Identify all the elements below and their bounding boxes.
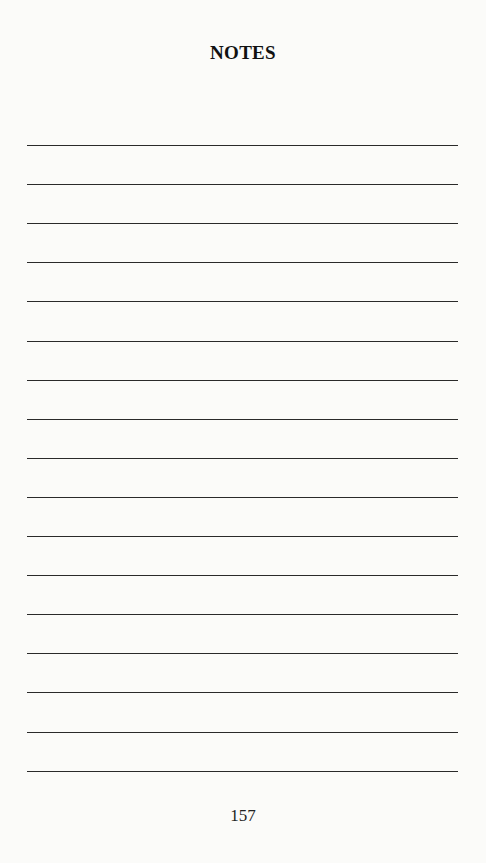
writing-rule (27, 223, 458, 224)
writing-rule (27, 301, 458, 302)
writing-rule (27, 536, 458, 537)
page-number: 157 (0, 806, 486, 826)
writing-rule (27, 458, 458, 459)
page-title: NOTES (0, 42, 486, 64)
writing-rule (27, 771, 458, 772)
writing-rule (27, 497, 458, 498)
writing-rule (27, 380, 458, 381)
writing-rule (27, 184, 458, 185)
writing-rule (27, 341, 458, 342)
writing-rule (27, 692, 458, 693)
writing-rule (27, 145, 458, 146)
writing-rule (27, 732, 458, 733)
writing-rule (27, 419, 458, 420)
writing-rule (27, 575, 458, 576)
writing-rule (27, 262, 458, 263)
writing-rule (27, 614, 458, 615)
writing-rule (27, 653, 458, 654)
